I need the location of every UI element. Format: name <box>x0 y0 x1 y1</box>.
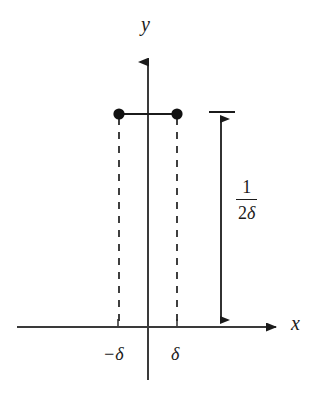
x-tick-label-pos-delta: δ <box>171 345 179 363</box>
plot-canvas <box>0 0 319 404</box>
fraction-bar <box>236 199 257 200</box>
fraction-denominator-delta-symbol: δ <box>247 203 255 223</box>
fraction-denominator: 2δ <box>236 202 257 223</box>
y-axis-label: y <box>141 14 150 34</box>
fraction-numerator: 1 <box>236 177 257 198</box>
x-axis-label: x <box>291 313 300 333</box>
data-point-right <box>171 108 182 119</box>
x-tick-label-neg-delta: −δ <box>103 345 124 363</box>
height-annotation-fraction: 1 2δ <box>236 177 257 223</box>
fraction-denominator-coefficient: 2 <box>238 203 247 223</box>
delta-function-figure: y x −δ δ 1 2δ <box>0 0 319 404</box>
data-point-left <box>113 108 124 119</box>
